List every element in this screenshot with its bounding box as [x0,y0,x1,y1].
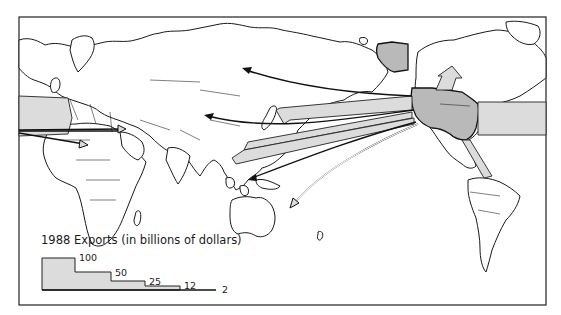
legend-value-100: 100 [79,252,97,263]
legend-value-12: 12 [184,280,196,291]
legend-title: 1988 Exports (in billions of dollars) [41,233,242,247]
madagascar [134,211,141,226]
british-isles [51,78,61,93]
south-america [468,178,520,272]
new-zealand [317,231,322,240]
flow-arrow-middle-east [19,129,122,130]
australia [230,197,275,237]
pacific-islands [359,37,367,44]
legend-value-2: 2 [222,284,228,295]
world-export-flow-map [0,0,561,315]
new-guinea [256,179,280,189]
indian-subcontinent [166,147,190,184]
legend-value-25: 25 [149,276,161,287]
legend-value-50: 50 [115,267,127,278]
flow-band-europe-east [478,102,546,135]
